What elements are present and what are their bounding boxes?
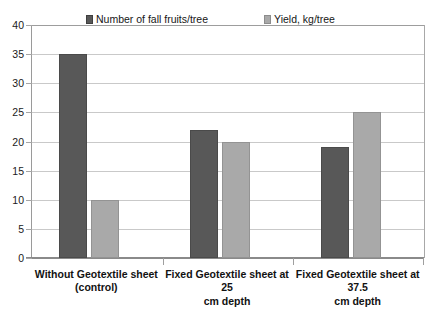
x-axis-category-label-line: Fixed Geotextile sheet at 25 (163, 268, 292, 295)
y-axis-tick-label: 10 (2, 195, 24, 206)
y-axis-tick-mark (26, 229, 32, 230)
bar-yield-cat0 (91, 200, 119, 258)
y-axis-tick-mark (26, 54, 32, 55)
y-axis-tick-label: 0 (2, 253, 24, 264)
legend-entry-1: Yield, kg/tree (264, 14, 335, 25)
x-axis-tick-mark (423, 258, 424, 265)
x-axis-category-label-line: cm depth (163, 295, 292, 308)
bar-yield-cat1 (222, 142, 250, 259)
bar-yield-cat2 (353, 112, 381, 258)
plot-area (31, 25, 425, 258)
x-axis-category-label-line: (control) (32, 281, 161, 294)
y-axis-tick-label: 5 (2, 224, 24, 235)
legend-label: Yield, kg/tree (274, 14, 335, 25)
gridline (32, 25, 424, 26)
x-axis-category-label-1: Fixed Geotextile sheet at 25cm depth (162, 268, 293, 311)
bar-chart: 4035302520151050 Number of fall fruits/t… (0, 0, 430, 311)
y-axis-tick-mark (26, 25, 32, 26)
chart-legend: Number of fall fruits/treeYield, kg/tree (86, 14, 335, 25)
y-axis-tick-label: 25 (2, 107, 24, 118)
y-axis: 4035302520151050 (0, 0, 24, 311)
x-axis-category-label-2: Fixed Geotextile sheet at 37.5cm depth (292, 268, 423, 311)
y-axis-tick-mark (26, 200, 32, 201)
x-axis-tick-mark (293, 258, 294, 265)
x-axis-tick-mark (163, 258, 164, 265)
x-axis-category-label-line: Without Geotextile sheet (32, 268, 161, 281)
bar-fall-fruits-cat1 (190, 130, 218, 258)
y-axis-tick-mark (26, 171, 32, 172)
bar-fall-fruits-cat0 (59, 54, 87, 258)
gridline (32, 83, 424, 84)
x-axis-category-label-0: Without Geotextile sheet(control) (31, 268, 162, 311)
y-axis-tick-mark (26, 142, 32, 143)
y-axis-tick-mark (26, 112, 32, 113)
y-axis-tick-label: 20 (2, 136, 24, 147)
bar-fall-fruits-cat2 (321, 147, 349, 258)
legend-label: Number of fall fruits/tree (96, 14, 208, 25)
y-axis-tick-label: 40 (2, 20, 24, 31)
light-square-icon (264, 15, 271, 24)
y-axis-tick-label: 30 (2, 78, 24, 89)
gridline (32, 54, 424, 55)
x-axis: Without Geotextile sheet(control)Fixed G… (31, 268, 423, 311)
y-axis-tick-label: 15 (2, 165, 24, 176)
x-axis-category-label-line: Fixed Geotextile sheet at 37.5 (293, 268, 422, 295)
dark-square-icon (86, 15, 93, 24)
legend-entry-0: Number of fall fruits/tree (86, 14, 208, 25)
y-axis-tick-mark (26, 258, 32, 259)
y-axis-tick-label: 35 (2, 49, 24, 60)
x-axis-category-label-line: cm depth (293, 295, 422, 308)
y-axis-tick-mark (26, 83, 32, 84)
